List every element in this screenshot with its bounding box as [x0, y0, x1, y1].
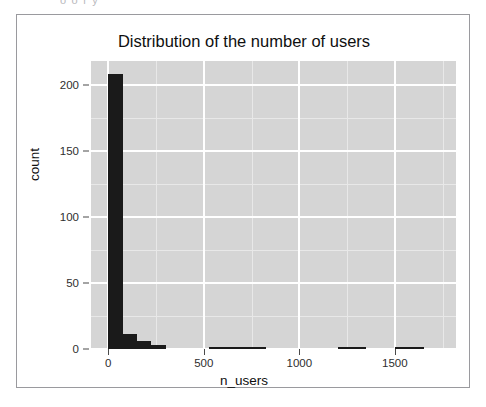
x-axis-tick-label: 1500 — [382, 357, 408, 369]
histogram-bar — [108, 74, 122, 349]
gridline-minor-horizontal — [91, 118, 456, 119]
y-axis-tick-mark — [83, 150, 89, 151]
histogram-bar — [338, 347, 352, 349]
gridline-major-horizontal — [91, 216, 456, 218]
gridline-minor-vertical — [443, 61, 444, 349]
gridline-minor-vertical — [156, 61, 157, 349]
x-axis-tick-label: 1000 — [287, 357, 313, 369]
histogram-bar — [395, 347, 409, 349]
x-axis-title: n_users — [17, 373, 471, 388]
gridline-minor-horizontal — [91, 250, 456, 251]
y-axis-tick-label: 50 — [66, 277, 79, 289]
histogram-bar — [237, 347, 251, 349]
x-axis-tick-mark — [299, 349, 300, 355]
x-axis-tick-mark — [108, 349, 109, 355]
gridline-major-horizontal — [91, 84, 456, 86]
gridline-minor-horizontal — [91, 184, 456, 185]
histogram-bar — [409, 347, 423, 349]
x-axis-tick-labels: 050010001500 — [17, 357, 471, 373]
plot-panel — [91, 61, 456, 349]
histogram-bar — [252, 347, 266, 349]
histogram-bar — [209, 347, 223, 349]
y-axis-tick-label: 150 — [60, 145, 79, 157]
gridline-major-horizontal — [91, 282, 456, 284]
figure-frame: Distribution of the number of users 0501… — [16, 14, 470, 388]
histogram-bar — [352, 347, 366, 349]
page-title: Distribution of the number of users — [17, 32, 471, 51]
gridline-major-vertical — [298, 61, 300, 349]
y-axis-tick-mark — [83, 216, 89, 217]
y-axis-title: count — [27, 130, 42, 200]
histogram-bar — [123, 334, 137, 349]
y-axis-tick-mark — [83, 282, 89, 283]
y-axis-tick-mark — [83, 84, 89, 85]
x-axis-tick-mark — [204, 349, 205, 355]
gridline-major-vertical — [394, 61, 396, 349]
x-axis-tick-label: 0 — [105, 357, 111, 369]
y-axis-tick-label: 200 — [60, 79, 79, 91]
x-axis-tick-mark — [395, 349, 396, 355]
y-axis-tick-labels: 050100150200 — [45, 61, 79, 349]
clipped-top-text: o o r y — [60, 0, 240, 6]
y-axis-tick-mark — [83, 349, 89, 350]
y-axis-tick-label: 0 — [73, 343, 79, 355]
histogram-bar — [137, 341, 151, 349]
gridline-minor-vertical — [252, 61, 253, 349]
gridline-major-horizontal — [91, 150, 456, 152]
gridline-minor-vertical — [347, 61, 348, 349]
gridline-minor-horizontal — [91, 316, 456, 317]
histogram-bar — [223, 347, 237, 349]
x-axis-tick-label: 500 — [194, 357, 213, 369]
y-axis-tick-label: 100 — [60, 211, 79, 223]
gridline-major-vertical — [203, 61, 205, 349]
histogram-bar — [151, 345, 165, 349]
